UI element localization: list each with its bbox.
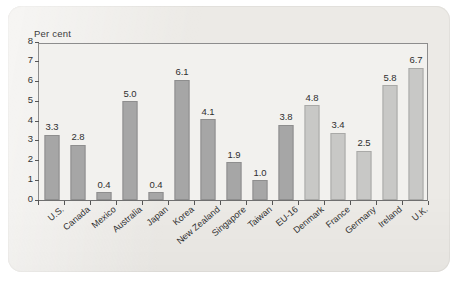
y-axis-tick-mark xyxy=(35,180,39,181)
bars-layer: 3.32.80.45.00.46.14.11.91.03.84.83.42.55… xyxy=(39,44,427,200)
bar[interactable] xyxy=(409,68,424,200)
y-axis-unit-label: Per cent xyxy=(34,28,71,39)
bar-slot: 4.8 xyxy=(299,44,325,200)
bar[interactable] xyxy=(383,85,398,200)
y-axis-tick-label: 3 xyxy=(24,134,33,144)
x-axis-category-label: U.S. xyxy=(47,205,66,223)
bar[interactable] xyxy=(71,145,86,200)
bar-slot: 1.9 xyxy=(221,44,247,200)
y-axis-tick-label: 8 xyxy=(24,36,33,46)
y-axis-tick-mark xyxy=(35,101,39,102)
bar-value-label: 2.5 xyxy=(357,138,370,148)
bar[interactable] xyxy=(201,119,216,200)
chart-screenshot: Per cent 3.32.80.45.00.46.14.11.91.03.84… xyxy=(0,0,458,282)
bar-value-label: 4.1 xyxy=(201,107,214,117)
x-axis-category-label: Taiwan xyxy=(247,205,274,230)
y-axis-tick-label: 2 xyxy=(24,154,33,164)
x-axis-category-label: Canada xyxy=(62,205,92,232)
bar-value-label: 6.7 xyxy=(409,55,422,65)
bar-slot: 2.8 xyxy=(65,44,91,200)
bar[interactable] xyxy=(123,101,138,200)
x-axis-category-label: Japan xyxy=(145,205,170,228)
bar[interactable] xyxy=(97,192,112,200)
bar-value-label: 3.8 xyxy=(279,112,292,122)
bar-value-label: 3.4 xyxy=(331,120,344,130)
bar-value-label: 6.1 xyxy=(175,67,188,77)
x-axis-category-label: U.K. xyxy=(411,205,430,223)
bar[interactable] xyxy=(149,192,164,200)
bar-slot: 1.0 xyxy=(247,44,273,200)
y-axis-tick-label: 5 xyxy=(24,95,33,105)
y-axis-tick-mark xyxy=(35,121,39,122)
bar-slot: 6.1 xyxy=(169,44,195,200)
bar-slot: 3.4 xyxy=(325,44,351,200)
bar-value-label: 3.3 xyxy=(45,122,58,132)
y-axis-tick-label: 6 xyxy=(24,75,33,85)
bar-value-label: 4.8 xyxy=(305,93,318,103)
bar-slot: 5.8 xyxy=(377,44,403,200)
y-axis-tick-label: 0 xyxy=(24,194,33,204)
y-axis-tick-mark xyxy=(35,81,39,82)
bar[interactable] xyxy=(175,80,190,200)
bar-value-label: 5.0 xyxy=(123,89,136,99)
bar[interactable] xyxy=(357,151,372,200)
bar-value-label: 2.8 xyxy=(71,132,84,142)
y-axis-tick-mark xyxy=(35,61,39,62)
x-axis-tick-mark xyxy=(428,201,429,205)
bar-slot: 2.5 xyxy=(351,44,377,200)
bar-slot: 0.4 xyxy=(91,44,117,200)
x-axis-category-label: Ireland xyxy=(377,205,404,230)
bar[interactable] xyxy=(45,135,60,200)
bar[interactable] xyxy=(331,133,346,200)
bar-value-label: 0.4 xyxy=(97,180,110,190)
bar-value-label: 5.8 xyxy=(383,73,396,83)
bar-slot: 0.4 xyxy=(143,44,169,200)
bar-slot: 3.8 xyxy=(273,44,299,200)
y-axis-tick-label: 1 xyxy=(24,174,33,184)
bar-value-label: 1.9 xyxy=(227,150,240,160)
bar-value-label: 0.4 xyxy=(149,180,162,190)
bar[interactable] xyxy=(279,125,294,200)
bar-value-label: 1.0 xyxy=(253,168,266,178)
bar[interactable] xyxy=(305,105,320,200)
y-axis-tick-mark xyxy=(35,42,39,43)
x-axis-labels: U.S.CanadaMexicoAustraliaJapanKoreaNew Z… xyxy=(38,205,428,265)
bar[interactable] xyxy=(227,162,242,200)
bar-slot: 3.3 xyxy=(39,44,65,200)
bar-slot: 6.7 xyxy=(403,44,429,200)
plot-area: 3.32.80.45.00.46.14.11.91.03.84.83.42.55… xyxy=(38,43,428,201)
bar-slot: 5.0 xyxy=(117,44,143,200)
chart-card: Per cent 3.32.80.45.00.46.14.11.91.03.84… xyxy=(8,6,450,272)
y-axis-tick-mark xyxy=(35,140,39,141)
bar[interactable] xyxy=(253,180,268,200)
y-axis-tick-label: 4 xyxy=(24,115,33,125)
y-axis-tick-label: 7 xyxy=(24,55,33,65)
y-axis-tick-mark xyxy=(35,160,39,161)
bar-slot: 4.1 xyxy=(195,44,221,200)
